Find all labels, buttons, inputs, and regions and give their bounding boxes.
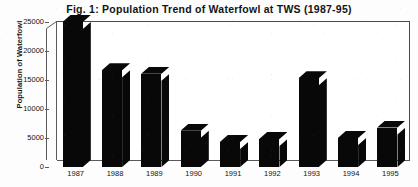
bar-top-face [181, 124, 209, 131]
x-tick-label: 1994 [331, 169, 370, 178]
bar-body [299, 78, 327, 167]
bar-front-face [181, 131, 201, 167]
bar-side-face [161, 74, 169, 167]
x-tick-label: 1990 [174, 169, 213, 178]
y-tick-label: 5000 [4, 133, 44, 142]
bars-layer [56, 21, 410, 167]
bar-1995[interactable] [377, 21, 405, 167]
bar-side-face [397, 128, 405, 167]
bar-front-face [63, 22, 83, 167]
x-tick-label: 1987 [56, 169, 95, 178]
bar-front-face [377, 128, 397, 167]
bar-front-face [141, 74, 161, 167]
bar-front-face [299, 78, 319, 167]
x-tick-label: 1992 [253, 169, 292, 178]
y-tick-mark [45, 167, 49, 168]
bar-body [102, 70, 130, 167]
bar-body [259, 139, 287, 167]
bar-1993[interactable] [299, 21, 327, 167]
bar-1988[interactable] [102, 21, 130, 167]
bar-top-face [259, 132, 287, 139]
y-tick-label: 20000 [4, 46, 44, 55]
bar-top-face [63, 15, 91, 22]
bar-top-face [141, 67, 169, 74]
x-tick-label: 1989 [135, 169, 174, 178]
bar-side-face [240, 142, 248, 167]
y-tick-label: 25000 [4, 17, 44, 26]
bar-front-face [102, 70, 122, 167]
bar-body [377, 128, 405, 167]
bar-body [181, 131, 209, 167]
bar-1994[interactable] [338, 21, 366, 167]
bar-1992[interactable] [259, 21, 287, 167]
bar-body [63, 22, 91, 167]
bar-side-face [201, 131, 209, 167]
y-tick-label: 15000 [4, 75, 44, 84]
x-axis-tick-labels: 198719881989199019911992199319941995 [56, 169, 410, 185]
bar-body [141, 74, 169, 167]
bar-top-face [220, 135, 248, 142]
bar-1987[interactable] [63, 21, 91, 167]
bar-side-face [319, 78, 327, 167]
bar-side-face [279, 139, 287, 167]
bar-body [220, 142, 248, 167]
y-tick-label: 10000 [4, 104, 44, 113]
bar-side-face [122, 70, 130, 167]
bar-front-face [220, 142, 240, 167]
bar-top-face [299, 71, 327, 78]
bar-front-face [338, 138, 358, 167]
bar-body [338, 138, 366, 167]
figure-container: Fig. 1: Population Trend of Waterfowl at… [0, 0, 418, 187]
chart-title: Fig. 1: Population Trend of Waterfowl at… [0, 3, 418, 15]
y-axis-tick-labels: 0500010000150002000025000 [0, 0, 44, 187]
x-tick-label: 1995 [371, 169, 410, 178]
bar-top-face [102, 63, 130, 70]
x-tick-label: 1988 [95, 169, 134, 178]
bar-side-face [358, 138, 366, 167]
bar-front-face [259, 139, 279, 167]
bar-side-face [83, 22, 91, 167]
bar-top-face [377, 121, 405, 128]
bar-1990[interactable] [181, 21, 209, 167]
bar-1989[interactable] [141, 21, 169, 167]
bar-top-face [338, 131, 366, 138]
y-tick-label: 0 [4, 162, 44, 171]
x-tick-label: 1991 [213, 169, 252, 178]
x-tick-label: 1993 [292, 169, 331, 178]
bar-1991[interactable] [220, 21, 248, 167]
